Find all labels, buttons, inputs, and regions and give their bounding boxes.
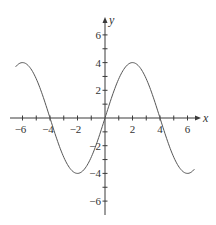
y-axis-arrow-icon (103, 17, 108, 23)
y-tick-label: −6 (89, 195, 101, 207)
function-graph: x y −6−4−2246642−2−4−6 (0, 0, 216, 225)
x-tick-label: −2 (70, 123, 82, 135)
y-tick-label: 4 (96, 57, 102, 69)
axes: x y (10, 13, 209, 215)
x-tick-label: −6 (15, 123, 27, 135)
x-axis-arrow-icon (195, 116, 201, 121)
x-axis-label: x (202, 111, 209, 125)
y-tick-label: −4 (89, 167, 101, 179)
x-tick-label: 6 (185, 123, 191, 135)
y-axis-label: y (108, 13, 115, 27)
x-tick-label: 2 (130, 123, 136, 135)
y-tick-label: 6 (96, 29, 102, 41)
y-tick-label: −2 (89, 140, 101, 152)
y-tick-label: 2 (96, 84, 102, 96)
